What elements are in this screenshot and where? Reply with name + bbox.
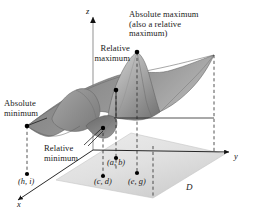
annotation-absolute-minimum: Absolute minimum: [4, 99, 38, 118]
dot-base-e-g: [135, 171, 139, 175]
label-domain-d: D: [186, 182, 193, 192]
relative-maximum-line2: maximum: [48, 54, 130, 64]
label-point-a-b: (a, b): [107, 158, 125, 167]
annotation-relative-maximum: Relative maximum: [48, 44, 130, 63]
label-point-e-g: (e, g): [128, 177, 146, 186]
label-axis-z: z: [86, 7, 89, 16]
label-axis-y: y: [234, 152, 238, 161]
domain-base-plane: [56, 133, 225, 198]
figure-canvas: [0, 0, 255, 219]
annotation-relative-minimum: Relative minimum: [44, 144, 78, 163]
annotation-absolute-maximum: Absolute maximum (also a relative maximu…: [129, 10, 199, 39]
surface-mesh: [27, 52, 214, 138]
relative-minimum-line2: minimum: [44, 154, 78, 164]
absolute-minimum-line2: minimum: [4, 109, 38, 119]
dot-relative-minimum: [101, 126, 105, 130]
dot-absolute-maximum: [135, 50, 140, 55]
absolute-maximum-line3: maximum): [129, 29, 199, 39]
dot-absolute-minimum: [25, 124, 30, 129]
dot-relative-maximum: [114, 88, 119, 93]
dot-base-h-i: [25, 172, 29, 176]
surface-extrema-figure: Absolute maximum (also a relative maximu…: [0, 0, 255, 219]
label-axis-x: x: [17, 200, 21, 209]
label-point-h-i: (h, i): [18, 177, 34, 186]
label-point-c-d: (c, d): [94, 177, 112, 186]
